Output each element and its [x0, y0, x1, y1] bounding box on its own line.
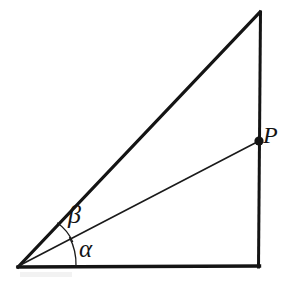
- figure-canvas: [0, 0, 285, 282]
- base-edge: [18, 266, 260, 267]
- geometry-figure: β α P: [0, 0, 285, 282]
- angle-label-alpha: α: [79, 236, 92, 261]
- point-p-label: P: [263, 123, 278, 147]
- scan-smudge: [20, 272, 72, 277]
- hypotenuse-edge: [18, 12, 260, 267]
- ray-to-point-p: [19, 141, 260, 266]
- angle-label-beta: β: [68, 202, 81, 228]
